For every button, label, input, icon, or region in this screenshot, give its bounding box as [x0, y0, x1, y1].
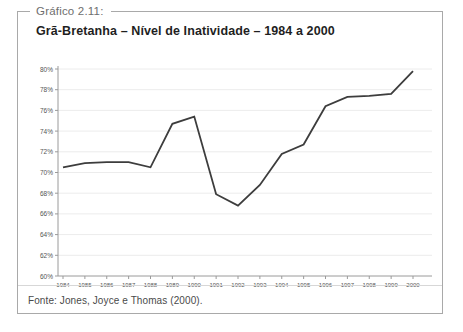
figure-header: Gráfico 2.11: — [17, 5, 443, 17]
axes — [58, 66, 432, 276]
svg-text:62%: 62% — [40, 252, 53, 259]
svg-text:80%: 80% — [40, 66, 53, 73]
figure-source: Fonte: Jones, Joyce e Thomas (2000). — [28, 295, 203, 306]
svg-text:66%: 66% — [40, 210, 53, 217]
figure-number-label: Gráfico 2.11: — [30, 5, 111, 17]
svg-text:64%: 64% — [40, 231, 53, 238]
x-axis-labels: 1984198519861987198819891990199119921993… — [56, 276, 420, 288]
header-rule-left — [17, 11, 30, 12]
svg-text:78%: 78% — [40, 86, 53, 93]
figure-box: Gráfico 2.11: Grã-Bretanha – Nível de In… — [17, 12, 443, 314]
svg-text:72%: 72% — [40, 148, 53, 155]
document-page: { "figure": { "label": "Gráfico 2.11:", … — [0, 0, 463, 332]
inactivity-line-chart: 60%62%64%66%68%70%72%74%76%78%80%1984198… — [18, 60, 442, 302]
source-separator-rule — [18, 285, 442, 286]
chart-area: 60%62%64%66%68%70%72%74%76%78%80%1984198… — [18, 60, 442, 302]
y-axis-labels: 60%62%64%66%68%70%72%74%76%78%80% — [40, 66, 58, 280]
svg-text:68%: 68% — [40, 190, 53, 197]
svg-text:70%: 70% — [40, 169, 53, 176]
svg-text:76%: 76% — [40, 107, 53, 114]
svg-text:60%: 60% — [40, 273, 53, 280]
svg-text:74%: 74% — [40, 128, 53, 135]
header-rule-right — [111, 11, 443, 12]
data-line-1984-2000 — [63, 71, 413, 206]
figure-title: Grã-Bretanha – Nível de Inatividade – 19… — [36, 24, 432, 38]
